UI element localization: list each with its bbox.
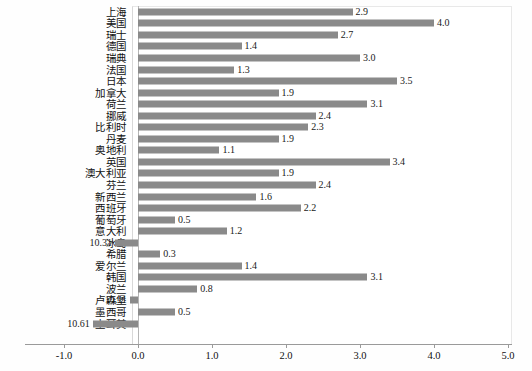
value-label: 1.1	[222, 145, 235, 155]
bar	[138, 205, 301, 212]
bar	[138, 274, 367, 281]
x-tick-label: 4.0	[427, 350, 440, 361]
category-label: 比利时	[0, 122, 126, 133]
x-tick-label: 1.0	[205, 350, 218, 361]
value-label: 10.11	[105, 295, 127, 305]
bar	[138, 124, 308, 131]
bar-row: 土耳其10.61	[0, 318, 532, 330]
category-label: 葡萄牙	[0, 214, 126, 225]
bar-row: 瑞士2.7	[0, 29, 532, 41]
bar-row: 希腊0.3	[0, 248, 532, 260]
x-tick-label: 5.0	[501, 350, 514, 361]
bar-row: 瑞典3.0	[0, 52, 532, 64]
bar	[138, 20, 434, 27]
category-label: 挪威	[0, 110, 126, 121]
category-label: 意大利	[0, 226, 126, 237]
x-tick-label: 3.0	[353, 350, 366, 361]
value-label: 2.2	[304, 203, 317, 213]
value-label: 1.4	[245, 41, 258, 51]
value-label: 10.61	[67, 319, 90, 329]
value-label: 1.9	[282, 88, 295, 98]
bar-row: 卢森堡10.11	[0, 295, 532, 307]
category-label: 爱尔兰	[0, 260, 126, 271]
bar-row: 奥地利1.1	[0, 145, 532, 157]
bar	[138, 89, 279, 96]
value-label: 1.2	[230, 226, 243, 236]
category-label: 墨西哥	[0, 306, 126, 317]
bar-row: 挪威2.4	[0, 110, 532, 122]
value-label: 2.7	[341, 30, 354, 40]
category-label: 瑞典	[0, 52, 126, 63]
bar	[138, 66, 234, 73]
category-label: 上海	[0, 6, 126, 17]
value-label: 0.8	[200, 284, 213, 294]
value-label: 1.6	[259, 192, 272, 202]
bar-row: 日本3.5	[0, 75, 532, 87]
bar	[130, 297, 138, 304]
bar	[138, 8, 353, 15]
category-label: 加拿大	[0, 87, 126, 98]
category-label: 瑞士	[0, 29, 126, 40]
bar-row: 美国4.0	[0, 18, 532, 30]
category-label: 西班牙	[0, 203, 126, 214]
bar	[138, 135, 279, 142]
bar	[138, 101, 367, 108]
bar-chart: 上海2.9美国4.0瑞士2.7德国1.4瑞典3.0法国1.3日本3.5加拿大1.…	[0, 0, 532, 371]
bar-row: 冰岛10.31	[0, 237, 532, 249]
value-label: 4.0	[437, 18, 450, 28]
bar	[138, 158, 390, 165]
bar-row: 法国1.3	[0, 64, 532, 76]
bar	[138, 251, 160, 258]
bar-row: 上海2.9	[0, 6, 532, 18]
bar-row: 丹麦1.9	[0, 133, 532, 145]
bar-row: 韩国3.1	[0, 272, 532, 284]
category-label: 英国	[0, 156, 126, 167]
x-tick-label: 0.0	[131, 350, 144, 361]
category-label: 德国	[0, 41, 126, 52]
bar	[138, 170, 279, 177]
value-label: 10.31	[90, 238, 113, 248]
value-label: 2.9	[356, 7, 369, 17]
bar-row: 澳大利亚1.9	[0, 168, 532, 180]
bar	[138, 262, 242, 269]
x-axis-line	[25, 344, 512, 345]
category-label: 澳大利亚	[0, 168, 126, 179]
value-label: 3.4	[393, 157, 406, 167]
bar	[138, 285, 197, 292]
bar	[138, 228, 227, 235]
x-tick-label: 2.0	[279, 350, 292, 361]
x-tick-mark	[212, 344, 213, 348]
x-tick-mark	[508, 344, 509, 348]
category-label: 美国	[0, 18, 126, 29]
bar	[138, 216, 175, 223]
bar-row: 比利时2.3	[0, 121, 532, 133]
category-label: 奥地利	[0, 145, 126, 156]
bar-row: 荷兰3.1	[0, 98, 532, 110]
bar	[138, 147, 219, 154]
bar-row: 新西兰1.6	[0, 191, 532, 203]
value-label: 1.9	[282, 168, 295, 178]
value-label: 1.9	[282, 134, 295, 144]
bar	[138, 181, 316, 188]
bar-row: 芬兰2.4	[0, 179, 532, 191]
bar	[93, 320, 138, 327]
value-label: 3.1	[370, 272, 383, 282]
bar-row: 意大利1.2	[0, 225, 532, 237]
value-label: 2.3	[311, 122, 324, 132]
bar-row: 墨西哥0.5	[0, 306, 532, 318]
bar	[138, 54, 360, 61]
bar-row: 葡萄牙0.5	[0, 214, 532, 226]
value-label: 0.5	[178, 307, 191, 317]
bar	[138, 31, 338, 38]
value-label: 3.0	[363, 53, 376, 63]
value-label: 1.4	[245, 261, 258, 271]
value-label: 2.4	[319, 111, 332, 121]
bar-row: 西班牙2.2	[0, 202, 532, 214]
bar-row: 加拿大1.9	[0, 87, 532, 99]
value-label: 0.5	[178, 215, 191, 225]
value-label: 3.5	[400, 76, 413, 86]
category-label: 希腊	[0, 249, 126, 260]
value-label: 2.4	[319, 180, 332, 190]
bar	[138, 308, 175, 315]
category-label: 韩国	[0, 272, 126, 283]
